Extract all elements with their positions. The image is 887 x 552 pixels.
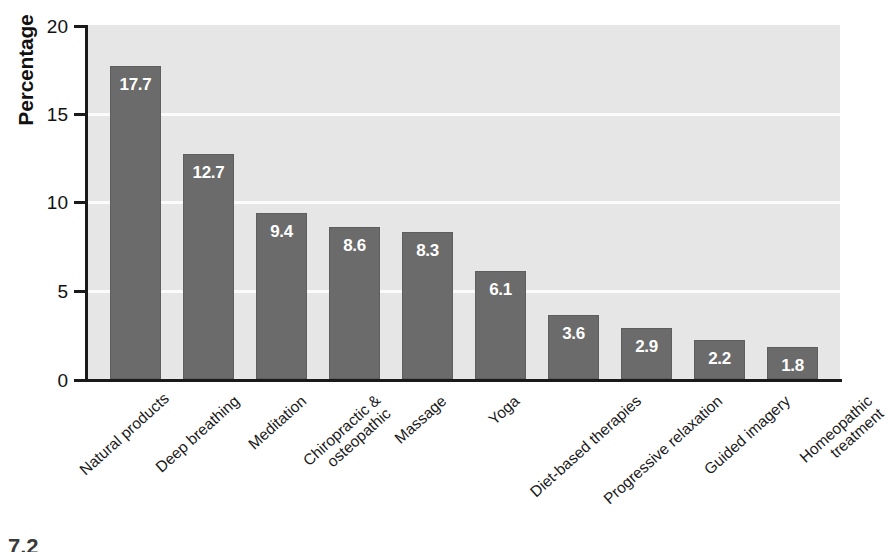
y-tick-label-10: 10: [20, 193, 68, 212]
bar-value-deep-breathing: 12.7: [183, 164, 234, 181]
bar-value-diet-based-therapies: 3.6: [548, 325, 599, 342]
bar-value-yoga: 6.1: [475, 281, 526, 298]
y-tick-15: [74, 113, 86, 116]
y-tick-label-15: 15: [20, 105, 68, 124]
x-tick-label-yoga: Yoga: [478, 392, 522, 434]
bar-natural-products[interactable]: [110, 66, 161, 379]
bar-value-chiropractic: 8.6: [329, 237, 380, 254]
x-tick-label-homeopathic-treatment: Homeopathic treatment: [787, 392, 887, 487]
y-tick-20: [74, 25, 86, 28]
cropped-footer-text: 7.2: [8, 536, 39, 552]
bar-value-natural-products: 17.7: [110, 76, 161, 93]
y-tick-label-5: 5: [20, 282, 68, 301]
bar-value-meditation: 9.4: [256, 223, 307, 240]
y-tick-10: [74, 201, 86, 204]
bar-value-homeopathic-treatment: 1.8: [767, 357, 818, 374]
bar-deep-breathing[interactable]: [183, 154, 234, 379]
y-tick-label-0: 0: [20, 371, 68, 390]
x-tick-label-meditation: Meditation: [239, 392, 310, 458]
y-tick-0: [74, 379, 86, 382]
y-tick-label-20: 20: [20, 17, 68, 36]
y-tick-5: [74, 290, 86, 293]
x-tick-label-chiropractic: Chiropractic & osteopathic: [300, 392, 394, 482]
bar-value-progressive-relaxation: 2.9: [621, 338, 672, 355]
x-axis-line: [85, 379, 842, 382]
bar-value-guided-imagery: 2.2: [694, 350, 745, 367]
gridline-15: [88, 113, 840, 116]
bar-value-massage: 8.3: [402, 242, 453, 259]
x-tick-label-massage: Massage: [387, 392, 449, 450]
